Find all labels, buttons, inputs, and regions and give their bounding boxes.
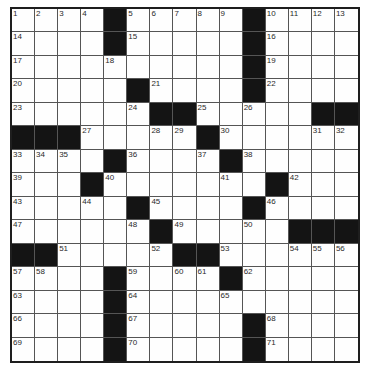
grid-cell[interactable] <box>197 197 220 220</box>
grid-cell[interactable]: 6 <box>150 9 173 32</box>
grid-cell[interactable] <box>266 220 289 243</box>
grid-cell[interactable]: 23 <box>12 103 35 126</box>
grid-cell[interactable]: 4 <box>81 9 104 32</box>
grid-cell[interactable] <box>35 32 58 55</box>
grid-cell[interactable] <box>58 291 81 314</box>
grid-cell[interactable] <box>173 173 196 196</box>
grid-cell[interactable] <box>197 173 220 196</box>
grid-cell[interactable] <box>266 126 289 149</box>
grid-cell[interactable] <box>220 56 243 79</box>
grid-cell[interactable] <box>220 220 243 243</box>
grid-cell[interactable] <box>35 314 58 337</box>
grid-cell[interactable] <box>220 79 243 102</box>
grid-cell[interactable] <box>266 244 289 267</box>
grid-cell[interactable]: 53 <box>220 244 243 267</box>
grid-cell[interactable] <box>58 338 81 361</box>
grid-cell[interactable] <box>58 103 81 126</box>
grid-cell[interactable] <box>150 291 173 314</box>
grid-cell[interactable]: 67 <box>127 314 150 337</box>
grid-cell[interactable] <box>266 291 289 314</box>
grid-cell[interactable] <box>289 79 312 102</box>
grid-cell[interactable] <box>289 314 312 337</box>
grid-cell[interactable] <box>312 291 335 314</box>
grid-cell[interactable]: 65 <box>220 291 243 314</box>
grid-cell[interactable]: 26 <box>243 103 266 126</box>
grid-cell[interactable] <box>58 220 81 243</box>
grid-cell[interactable] <box>173 56 196 79</box>
grid-cell[interactable] <box>335 197 358 220</box>
grid-cell[interactable]: 21 <box>150 79 173 102</box>
grid-cell[interactable]: 64 <box>127 291 150 314</box>
grid-cell[interactable]: 39 <box>12 173 35 196</box>
grid-cell[interactable] <box>58 173 81 196</box>
grid-cell[interactable] <box>81 267 104 290</box>
grid-cell[interactable] <box>81 103 104 126</box>
grid-cell[interactable]: 32 <box>335 126 358 149</box>
grid-cell[interactable]: 10 <box>266 9 289 32</box>
grid-cell[interactable] <box>173 291 196 314</box>
grid-cell[interactable]: 15 <box>127 32 150 55</box>
grid-cell[interactable]: 2 <box>35 9 58 32</box>
grid-cell[interactable] <box>243 244 266 267</box>
grid-cell[interactable]: 38 <box>243 150 266 173</box>
grid-cell[interactable] <box>35 79 58 102</box>
grid-cell[interactable]: 61 <box>197 267 220 290</box>
grid-cell[interactable]: 56 <box>335 244 358 267</box>
grid-cell[interactable]: 5 <box>127 9 150 32</box>
grid-cell[interactable]: 41 <box>220 173 243 196</box>
grid-cell[interactable]: 20 <box>12 79 35 102</box>
grid-cell[interactable] <box>266 267 289 290</box>
grid-cell[interactable] <box>197 56 220 79</box>
grid-cell[interactable]: 46 <box>266 197 289 220</box>
grid-cell[interactable] <box>335 314 358 337</box>
grid-cell[interactable]: 55 <box>312 244 335 267</box>
grid-cell[interactable] <box>104 244 127 267</box>
grid-cell[interactable]: 19 <box>266 56 289 79</box>
grid-cell[interactable] <box>58 79 81 102</box>
grid-cell[interactable] <box>35 103 58 126</box>
grid-cell[interactable] <box>220 103 243 126</box>
grid-cell[interactable] <box>150 56 173 79</box>
grid-cell[interactable]: 36 <box>127 150 150 173</box>
grid-cell[interactable] <box>81 314 104 337</box>
grid-cell[interactable] <box>81 79 104 102</box>
grid-cell[interactable] <box>289 338 312 361</box>
grid-cell[interactable]: 37 <box>197 150 220 173</box>
grid-cell[interactable] <box>243 126 266 149</box>
grid-cell[interactable] <box>289 56 312 79</box>
grid-cell[interactable] <box>173 32 196 55</box>
grid-cell[interactable] <box>150 267 173 290</box>
grid-cell[interactable] <box>81 32 104 55</box>
grid-cell[interactable]: 58 <box>35 267 58 290</box>
grid-cell[interactable] <box>289 197 312 220</box>
grid-cell[interactable] <box>312 338 335 361</box>
grid-cell[interactable]: 69 <box>12 338 35 361</box>
grid-cell[interactable]: 1 <box>12 9 35 32</box>
grid-cell[interactable]: 43 <box>12 197 35 220</box>
grid-cell[interactable] <box>58 197 81 220</box>
grid-cell[interactable] <box>35 220 58 243</box>
grid-cell[interactable] <box>35 338 58 361</box>
grid-cell[interactable] <box>58 56 81 79</box>
grid-cell[interactable] <box>104 220 127 243</box>
grid-cell[interactable] <box>335 56 358 79</box>
grid-cell[interactable] <box>104 103 127 126</box>
grid-cell[interactable] <box>335 338 358 361</box>
grid-cell[interactable] <box>81 291 104 314</box>
grid-cell[interactable]: 63 <box>12 291 35 314</box>
grid-cell[interactable] <box>312 32 335 55</box>
grid-cell[interactable] <box>312 314 335 337</box>
grid-cell[interactable]: 22 <box>266 79 289 102</box>
grid-cell[interactable] <box>335 291 358 314</box>
grid-cell[interactable] <box>220 32 243 55</box>
grid-cell[interactable] <box>150 314 173 337</box>
grid-cell[interactable] <box>150 150 173 173</box>
grid-cell[interactable] <box>173 79 196 102</box>
grid-cell[interactable] <box>243 291 266 314</box>
grid-cell[interactable] <box>35 56 58 79</box>
grid-cell[interactable] <box>312 56 335 79</box>
grid-cell[interactable] <box>289 291 312 314</box>
grid-cell[interactable]: 68 <box>266 314 289 337</box>
grid-cell[interactable]: 40 <box>104 173 127 196</box>
grid-cell[interactable] <box>335 173 358 196</box>
